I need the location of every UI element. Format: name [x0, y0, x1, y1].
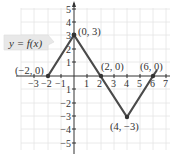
function-label: y = f(x): [8, 37, 42, 50]
y-tick-label: 1: [66, 57, 71, 68]
function-graph: −3 −2 −1 1 2 3 4 5 6 7 5 4 3 2 1 1 −2 −3…: [0, 0, 173, 167]
point-label: (−2, 0): [15, 65, 44, 77]
x-tick-label: −1: [55, 78, 66, 89]
y-tick-label: 1: [66, 84, 71, 95]
x-tick-label: −2: [41, 78, 52, 89]
point-4-neg3: [125, 115, 129, 119]
point-6-0: [151, 74, 155, 78]
x-tick-label: 1: [84, 78, 89, 89]
y-tick-label: −5: [60, 138, 71, 149]
point-2-0: [99, 74, 103, 78]
x-tick-label: 4: [124, 78, 129, 89]
y-tick-label: −2: [60, 98, 71, 109]
point-label: (4, −3): [110, 121, 139, 133]
x-tick-label: 3: [111, 78, 116, 89]
function-callout: y = f(x): [4, 35, 54, 50]
y-tick-label: −3: [60, 111, 71, 122]
x-tick-label: 2: [97, 78, 102, 89]
x-tick-label: −3: [28, 78, 39, 89]
x-tick-label: 7: [163, 78, 168, 89]
y-tick-label: −4: [60, 124, 71, 135]
y-tick-label: 4: [66, 17, 71, 28]
point-0-3: [72, 33, 77, 38]
axes: [16, 1, 170, 154]
point-label: (0, 3): [78, 26, 101, 38]
point-label: (6, 0): [140, 61, 163, 73]
x-tick-label: 5: [137, 78, 142, 89]
point-neg2-0: [46, 74, 50, 78]
y-tick-label: 5: [66, 4, 71, 15]
point-label: (2, 0): [101, 61, 124, 73]
